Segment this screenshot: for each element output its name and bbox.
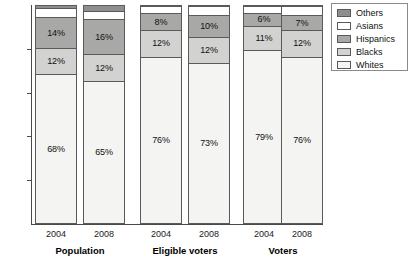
bar-column[interactable]: 8%12%76% (140, 5, 182, 224)
x-year-label: 2008 (83, 229, 125, 239)
stacked-bar-chart: 80604020 14%12%68%16%12%65%8%12%76%10%12… (0, 0, 411, 268)
y-axis-line (31, 5, 32, 225)
segment-value-label: 76% (293, 136, 311, 145)
bar-segment-whites[interactable]: 73% (188, 64, 230, 224)
segment-value-label: 14% (47, 29, 65, 38)
x-group-label: Eligible voters (135, 246, 235, 256)
legend-item[interactable]: Hispanics (337, 33, 407, 45)
bar-segment-blacks[interactable]: 12% (140, 31, 182, 57)
bar-segment-hispanics[interactable]: 7% (281, 16, 323, 31)
legend-item[interactable]: Blacks (337, 46, 407, 58)
bar-column[interactable]: 10%12%73% (188, 5, 230, 224)
bar-segment-blacks[interactable]: 11% (243, 27, 285, 51)
bar-segment-whites[interactable]: 65% (83, 82, 125, 224)
y-tick-mark (27, 49, 31, 50)
bar-segment-hispanics[interactable]: 10% (188, 16, 230, 38)
legend-label: Hispanics (356, 35, 395, 44)
legend-item[interactable]: Asians (337, 20, 407, 32)
bar-segment-asians[interactable] (83, 12, 125, 21)
bar-segment-hispanics[interactable]: 16% (83, 20, 125, 55)
legend-swatch-hispanics (337, 35, 351, 43)
segment-value-label: 10% (200, 22, 218, 31)
bar-segment-hispanics[interactable]: 14% (35, 18, 77, 49)
segment-value-label: 68% (47, 145, 65, 154)
bar-segment-blacks[interactable]: 12% (281, 31, 323, 57)
bar-column[interactable]: 14%12%68% (35, 5, 77, 224)
segment-value-label: 11% (255, 34, 272, 43)
bar-segment-hispanics[interactable]: 8% (140, 14, 182, 32)
x-year-label: 2008 (188, 229, 230, 239)
legend: OthersAsiansHispanicsBlacksWhites (331, 3, 408, 71)
legend-swatch-asians (337, 22, 351, 30)
segment-value-label: 6% (258, 15, 271, 24)
y-tick-mark (27, 93, 31, 94)
segment-value-label: 65% (95, 148, 113, 157)
legend-label: Blacks (356, 48, 383, 57)
legend-item[interactable]: Whites (337, 59, 407, 71)
bar-segment-asians[interactable] (188, 7, 230, 16)
x-year-label: 2004 (243, 229, 285, 239)
bar-segment-whites[interactable]: 79% (243, 51, 285, 224)
bar-segment-whites[interactable]: 76% (281, 58, 323, 224)
segment-value-label: 12% (200, 46, 218, 55)
segment-value-label: 79% (255, 133, 273, 142)
segment-value-label: 12% (47, 57, 65, 66)
legend-swatch-whites (337, 61, 351, 69)
x-group-label: Voters (233, 246, 333, 256)
bar-segment-blacks[interactable]: 12% (188, 38, 230, 64)
legend-item[interactable]: Others (337, 7, 407, 19)
segment-value-label: 12% (95, 64, 113, 73)
bar-column[interactable]: 16%12%65% (83, 5, 125, 224)
y-tick-mark (27, 136, 31, 137)
bar-column[interactable]: 6%11%79% (243, 5, 285, 224)
segment-value-label: 8% (155, 18, 168, 27)
x-year-label: 2008 (281, 229, 323, 239)
segment-value-label: 12% (293, 39, 311, 48)
y-tick-mark (27, 180, 31, 181)
x-axis-line (31, 224, 323, 225)
x-group-label: Population (30, 246, 130, 256)
legend-label: Asians (356, 22, 383, 31)
bar-segment-asians[interactable] (35, 9, 77, 18)
bar-segment-whites[interactable]: 68% (35, 75, 77, 224)
bar-segment-blacks[interactable]: 12% (35, 49, 77, 75)
bar-segment-whites[interactable]: 76% (140, 58, 182, 224)
bar-segment-asians[interactable] (281, 7, 323, 16)
segment-value-label: 16% (95, 33, 113, 42)
x-year-label: 2004 (35, 229, 77, 239)
segment-value-label: 73% (200, 139, 218, 148)
segment-value-label: 7% (296, 19, 309, 28)
bar-segment-hispanics[interactable]: 6% (243, 14, 285, 27)
segment-value-label: 76% (152, 136, 170, 145)
bar-column[interactable]: 7%12%76% (281, 5, 323, 224)
segment-value-label: 12% (152, 39, 170, 48)
legend-label: Whites (356, 61, 384, 70)
legend-label: Others (356, 9, 383, 18)
legend-swatch-blacks (337, 48, 351, 56)
legend-swatch-others (337, 9, 351, 17)
bar-segment-blacks[interactable]: 12% (83, 55, 125, 81)
x-year-label: 2004 (140, 229, 182, 239)
